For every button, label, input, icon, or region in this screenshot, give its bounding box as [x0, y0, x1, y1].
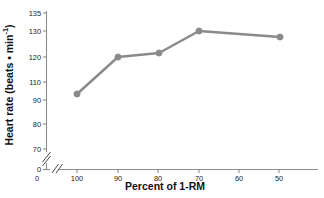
y-tick-label: 110 [29, 78, 41, 87]
y-tick-label: 90 [33, 96, 41, 105]
x-tick-label: 0 [35, 174, 39, 183]
data-point-marker [74, 91, 80, 97]
y-tick-label: 0 [37, 165, 41, 174]
x-axis-break-icon [52, 164, 63, 173]
y-tick-label: 80 [33, 120, 41, 129]
y-tick-label: 135 [29, 9, 41, 18]
data-point-marker [115, 54, 121, 60]
plot-area: 135 130 120 110 90 80 70 0 0 100 90 80 7… [0, 0, 324, 198]
series-markers [74, 28, 283, 97]
y-tick-label: 70 [33, 145, 41, 154]
y-tick-label: 130 [29, 27, 41, 36]
series-line-heart-rate [77, 31, 280, 94]
y-tick-label: 120 [29, 53, 41, 62]
chart-figure: Heart rate (beats • min-1) [0, 0, 324, 198]
y-axis-tick-labels: 135 130 120 110 90 80 70 0 [29, 9, 41, 175]
data-point-marker [277, 34, 283, 40]
data-point-marker [156, 50, 162, 56]
x-axis-label: Percent of 1-RM [40, 180, 290, 192]
data-point-marker [196, 28, 202, 34]
